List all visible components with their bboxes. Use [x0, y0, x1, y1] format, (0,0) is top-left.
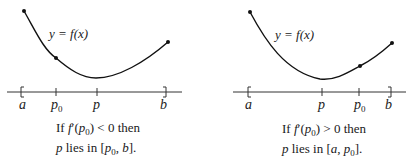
curve-label: y = f(x) — [273, 27, 314, 42]
label-a: a — [245, 97, 252, 112]
point-p0 — [358, 64, 362, 68]
diagram-left: y = f(x) a p0 p b If f′(p0) < 0 then p l… — [0, 0, 207, 163]
point-p0 — [54, 56, 58, 60]
endpoint-b — [390, 41, 394, 45]
curve — [24, 11, 168, 78]
caption-line-2: p lies in [a, p0]. — [282, 141, 366, 161]
label-p: p — [317, 97, 325, 112]
endpoint-b — [166, 40, 170, 44]
curve-label: y = f(x) — [47, 26, 88, 41]
label-p0: p0 — [50, 97, 63, 114]
endpoint-a — [248, 10, 252, 14]
curve — [250, 12, 392, 79]
label-a: a — [19, 97, 26, 112]
label-p: p — [92, 97, 100, 112]
caption-line-1: If f′(p0) < 0 then — [56, 120, 140, 140]
caption-line-2: p lies in [p0, b]. — [56, 140, 140, 160]
label-b: b — [385, 97, 392, 112]
endpoint-a — [22, 9, 26, 13]
label-b: b — [160, 97, 167, 112]
diagram-right: y = f(x) a p p0 b If f′(p0) > 0 then p l… — [207, 0, 415, 163]
caption-left: If f′(p0) < 0 then p lies in [p0, b]. — [56, 120, 140, 160]
caption-right: If f′(p0) > 0 then p lies in [a, p0]. — [282, 121, 366, 161]
caption-line-1: If f′(p0) > 0 then — [282, 121, 366, 141]
label-p0: p0 — [353, 97, 366, 114]
